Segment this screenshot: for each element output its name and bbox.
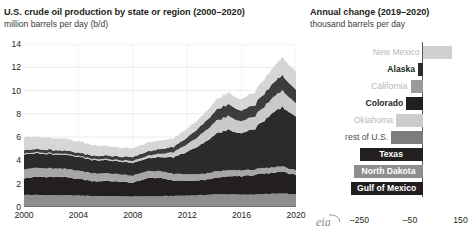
bar-row: Gulf of Mexico — [302, 180, 467, 197]
bar-row: Alaska — [302, 61, 467, 78]
x-tick-2004: 2004 — [58, 211, 98, 220]
left-chart-subtitle: million barrels per day (b/d) — [4, 19, 108, 29]
eia-logo-mark: eia — [316, 213, 344, 231]
bar-label-north-dakota: North Dakota — [354, 163, 422, 180]
y-tick-12: 12 — [2, 63, 21, 72]
y-tick-8: 8 — [2, 110, 21, 119]
y-tick-2: 2 — [2, 180, 21, 189]
right-plot-area: New MexicoAlaskaCaliforniaColoradoOklaho… — [302, 40, 467, 213]
bar-alaska — [418, 63, 423, 76]
x-tick-150: 150 — [441, 216, 473, 225]
bar-label-texas: Texas — [360, 146, 423, 163]
x-tick-neg250: –250 — [340, 216, 380, 225]
x-tick-2016: 2016 — [222, 211, 262, 220]
bar-label-oklahoma: Oklahoma — [302, 112, 393, 129]
bar-label-new-mexico: New Mexico — [302, 44, 420, 61]
bar-row: Oklahoma — [302, 112, 467, 129]
bar-label-alaska: Alaska — [302, 61, 415, 78]
x-tick-neg50: –50 — [390, 216, 430, 225]
bar-new-mexico — [423, 46, 452, 59]
bar-row: Colorado — [302, 95, 467, 112]
left-x-axis-tick-labels: 2000 2004 2008 2012 2016 2020 — [0, 211, 302, 229]
left-plot-area — [24, 44, 296, 207]
x-tick-2008: 2008 — [113, 211, 153, 220]
y-tick-10: 10 — [2, 87, 21, 96]
bar-colorado — [406, 97, 422, 110]
bar-california — [411, 80, 423, 93]
right-chart-subtitle: thousand barrels per day — [310, 19, 405, 29]
bar-oklahoma — [396, 114, 423, 127]
eia-logo: eia — [316, 213, 344, 231]
svg-text:eia: eia — [316, 215, 331, 229]
bar-row: rest of U.S. — [302, 129, 467, 146]
y-tick-14: 14 — [2, 40, 21, 49]
right-chart-title: Annual change (2019–2020) — [310, 7, 429, 17]
y-tick-4: 4 — [2, 156, 21, 165]
x-tick-2012: 2012 — [167, 211, 207, 220]
bar-label-gulf-of-mexico: Gulf of Mexico — [351, 180, 423, 197]
annual-change-bar-chart-panel: Annual change (2019–2020) thousand barre… — [302, 0, 467, 239]
stacked-area-svg — [24, 44, 296, 207]
crude-oil-production-area-chart-panel: U.S. crude oil production by state or re… — [0, 0, 302, 239]
bar-label-colorado: Colorado — [302, 95, 403, 112]
bar-row: California — [302, 78, 467, 95]
left-y-axis-tick-labels: 0 2 4 6 8 10 12 14 — [0, 36, 21, 215]
bar-row: New Mexico — [302, 44, 467, 61]
bar-label-rest-of-u-s-: rest of U.S. — [302, 129, 388, 146]
bar-rest-of-u-s- — [391, 131, 423, 144]
y-tick-6: 6 — [2, 133, 21, 142]
bar-row: North Dakota — [302, 163, 467, 180]
x-tick-2000: 2000 — [4, 211, 44, 220]
bar-row: Texas — [302, 146, 467, 163]
left-chart-title: U.S. crude oil production by state or re… — [4, 7, 245, 17]
bar-label-california: California — [302, 78, 408, 95]
